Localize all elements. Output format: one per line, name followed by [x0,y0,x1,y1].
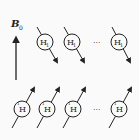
svg-text:H: H [19,105,26,114]
field-subscript: 0 [19,24,23,31]
spin-diagram: B 0 H 1 H 1 ··· H 1 1 H [0,0,139,140]
top-spin-1: H 1 [37,27,57,62]
svg-text:1: 1 [73,42,76,48]
top-spin-2: H 1 [64,27,84,62]
diagram-canvas: B 0 H 1 H 1 ··· H 1 1 H [0,0,139,140]
top-spin-n: H 1 [111,27,130,62]
svg-text:1: 1 [120,42,123,48]
svg-text:H: H [44,105,51,114]
bottom-spin-3: 1 H [63,88,85,128]
top-ellipsis: ··· [93,38,101,47]
bottom-spin-1: 1 H [12,88,34,128]
svg-text:H: H [70,105,77,114]
bottom-spin-2: 1 H [37,88,59,128]
svg-text:1: 1 [46,42,49,48]
bottom-spin-n: 1 H [109,88,131,128]
bottom-ellipsis: ··· [93,105,101,114]
svg-text:H: H [116,105,123,114]
